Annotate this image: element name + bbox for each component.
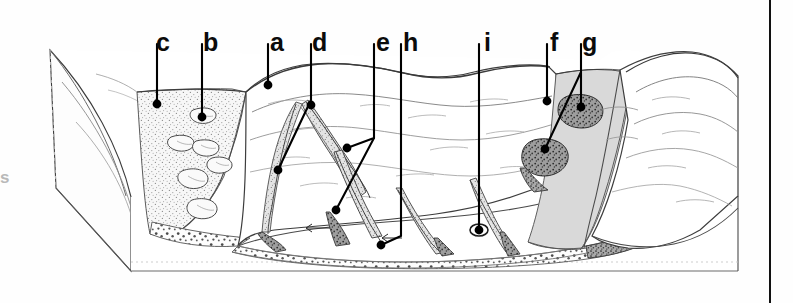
leader-dot-e-lower	[332, 206, 341, 215]
label-e: e	[376, 30, 389, 55]
block-diagram-illustration	[0, 0, 793, 303]
leader-dot-i	[475, 226, 484, 235]
label-a: a	[270, 30, 283, 55]
label-i: i	[484, 30, 490, 55]
page-right-rule	[769, 0, 771, 303]
leader-dot-d	[274, 166, 283, 175]
leader-dot-c	[153, 100, 162, 109]
leader-dot-f	[543, 97, 552, 106]
label-g: g	[582, 30, 597, 55]
leader-dot-g	[577, 103, 586, 112]
leader-dot-d-upper	[307, 101, 316, 110]
label-f: f	[550, 30, 558, 55]
leader-dot-b	[198, 113, 207, 122]
leader-dot-h	[377, 241, 386, 250]
debris-cone-g-lower	[522, 139, 568, 176]
leader-dot-e	[343, 144, 352, 153]
figure-page: s	[0, 0, 793, 303]
leader-dot-g-lower	[541, 145, 550, 154]
label-h: h	[403, 30, 418, 55]
leader-dot-a	[264, 81, 273, 90]
label-c: c	[156, 30, 169, 55]
label-b: b	[203, 30, 218, 55]
label-d: d	[312, 30, 327, 55]
